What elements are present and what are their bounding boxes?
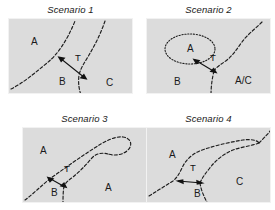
- region-label-a: A: [169, 149, 176, 160]
- upper-right-boundary: [259, 130, 271, 143]
- panel-scenario-2: T A B A/C: [146, 18, 271, 94]
- boundary-curve-right: [214, 22, 262, 71]
- region-label-c: C: [106, 77, 113, 88]
- panel-scenario-1: T A B C: [8, 18, 133, 94]
- region-label-ac: A/C: [235, 75, 252, 86]
- panel-title-scenario-2: Scenario 2: [146, 4, 271, 15]
- region-label-a: A: [187, 43, 194, 54]
- transition-label: T: [64, 163, 70, 174]
- region-label-a-right: A: [105, 182, 112, 193]
- tongue-upper-boundary: [149, 140, 259, 196]
- panel-title-scenario-4: Scenario 4: [146, 113, 271, 124]
- transition-arrow: [175, 179, 204, 185]
- boundary-curve-right: [79, 21, 105, 94]
- region-label-a: A: [31, 36, 38, 47]
- tongue-lower-boundary: [64, 153, 108, 186]
- transition-label: T: [190, 162, 196, 173]
- region-label-b: B: [174, 76, 181, 87]
- region-label-a-left: A: [40, 145, 47, 156]
- tongue-stem: [200, 183, 208, 203]
- scenario-figure: Scenario 1 Scenario 2 Scenario 3 Scenari…: [0, 0, 275, 210]
- region-label-b: B: [59, 76, 66, 87]
- tongue-stem: [63, 186, 64, 203]
- panel-title-scenario-3: Scenario 3: [22, 113, 147, 124]
- region-label-b: B: [51, 187, 58, 198]
- boundary-curve-vertical: [211, 71, 214, 94]
- tongue-lower-boundary: [200, 143, 259, 183]
- transition-label: T: [75, 52, 81, 63]
- transition-label: T: [210, 52, 216, 63]
- panel-scenario-4: T A B C: [146, 127, 271, 203]
- panel-title-scenario-1: Scenario 1: [8, 4, 133, 15]
- region-label-c: C: [236, 176, 243, 187]
- region-label-b: B: [194, 188, 201, 199]
- panel-scenario-3: T A B A: [22, 127, 147, 203]
